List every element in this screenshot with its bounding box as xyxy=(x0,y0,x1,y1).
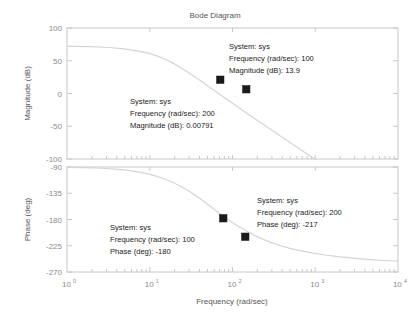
phase-datatip-200-line1: System: sys xyxy=(257,196,298,205)
phase-ytick-minus180: -180 xyxy=(46,216,63,225)
xtick-0-mantissa: 10 xyxy=(62,280,71,289)
magnitude-datatip-200-line3: Magnitude (dB): 0.00791 xyxy=(130,121,214,130)
magnitude-datatip-200-line2: Frequency (rad/sec): 200 xyxy=(130,109,215,118)
xtick-2-exponent: 2 xyxy=(239,278,242,284)
phase-marker-200[interactable] xyxy=(242,233,250,241)
phase-axis-label: Phase (deg) xyxy=(23,197,32,241)
phase-datatip-200-line2: Frequency (rad/sec): 200 xyxy=(257,208,342,217)
magnitude-datatip-100-line2: Frequency (rad/sec): 100 xyxy=(229,54,314,63)
magnitude-ytick-50: 50 xyxy=(53,57,62,66)
magnitude-marker-200[interactable] xyxy=(243,86,251,94)
chart-title: Bode Diagram xyxy=(189,11,240,20)
magnitude-marker-100[interactable] xyxy=(217,76,225,84)
magnitude-ytick-minus50: -50 xyxy=(50,122,62,131)
xtick-1-mantissa: 10 xyxy=(145,280,154,289)
phase-datatip-100-line2: Frequency (rad/sec): 100 xyxy=(110,235,195,244)
xtick-2-mantissa: 10 xyxy=(228,280,237,289)
xtick-0-exponent: 0 xyxy=(73,278,76,284)
magnitude-datatip-200-line1: System: sys xyxy=(130,97,171,106)
xtick-1-exponent: 1 xyxy=(156,278,159,284)
magnitude-ytick-100: 100 xyxy=(49,24,63,33)
phase-datatip-100-line1: System: sys xyxy=(110,223,151,232)
bode-diagram-figure: Bode Diagram 100 50 0 -50 -100 xyxy=(0,0,415,318)
xtick-4-mantissa: 10 xyxy=(393,280,402,289)
phase-ytick-minus225: -225 xyxy=(46,242,63,251)
magnitude-datatip-100-line1: System: sys xyxy=(229,42,270,51)
phase-ytick-minus135: -135 xyxy=(46,189,63,198)
phase-datatip-200-line3: Phase (deg): -217 xyxy=(257,220,318,229)
phase-marker-100[interactable] xyxy=(220,215,228,223)
phase-ytick-minus90: -90 xyxy=(50,163,62,172)
magnitude-datatip-100-line3: Magnitude (dB): 13.9 xyxy=(229,66,300,75)
xtick-3-mantissa: 10 xyxy=(310,280,319,289)
magnitude-ytick-0: 0 xyxy=(58,90,63,99)
phase-ytick-minus270: -270 xyxy=(46,268,63,277)
x-axis-label: Frequency (rad/sec) xyxy=(196,297,268,306)
xtick-3-exponent: 3 xyxy=(321,278,324,284)
phase-datatip-100-line3: Phase (deg): -180 xyxy=(110,247,171,256)
magnitude-axis-label: Magnitude (dB) xyxy=(23,66,32,121)
xtick-4-exponent: 4 xyxy=(404,278,407,284)
